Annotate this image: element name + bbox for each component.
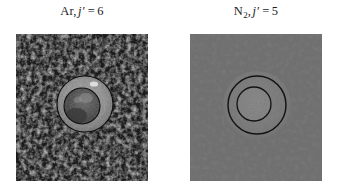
ion-image-n2 — [190, 34, 322, 181]
figure-root: Ar,j′=6 N2,j′=5 — [0, 0, 340, 194]
caption-value: 6 — [96, 4, 103, 18]
ion-image-ar — [16, 34, 148, 181]
panel-caption-n2: N2,j′=5 — [190, 3, 322, 19]
caption-equals-sign: = — [85, 4, 97, 18]
image-panel-ar — [16, 34, 148, 181]
caption-equals-sign: = — [259, 4, 271, 18]
image-panel-n2 — [190, 34, 322, 181]
caption-species-label: N — [234, 4, 243, 18]
caption-quantum-number: j — [76, 4, 81, 18]
caption-species-label: Ar — [60, 4, 73, 18]
panel-caption-ar: Ar,j′=6 — [16, 3, 148, 19]
ring-highlight-spot — [90, 81, 98, 86]
inner-ring-core — [238, 88, 270, 120]
caption-value: 5 — [271, 4, 278, 18]
